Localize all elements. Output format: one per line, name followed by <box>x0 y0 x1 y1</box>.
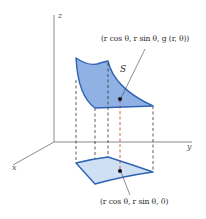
surface-s <box>76 58 153 108</box>
region-point <box>118 169 122 173</box>
region-d <box>76 157 153 184</box>
region-point-label: (r cos θ, r sin θ, 0) <box>100 197 168 206</box>
y-axis-label: y <box>187 142 192 151</box>
x-axis-label: x <box>12 163 17 172</box>
surface-label: S <box>120 64 126 74</box>
x-axis <box>13 142 54 165</box>
surface-point <box>118 97 122 101</box>
diagram-canvas <box>0 0 206 219</box>
surface-point-label: (r cos θ, r sin θ, g (r, θ)) <box>101 34 189 43</box>
z-axis-label: z <box>58 11 62 20</box>
